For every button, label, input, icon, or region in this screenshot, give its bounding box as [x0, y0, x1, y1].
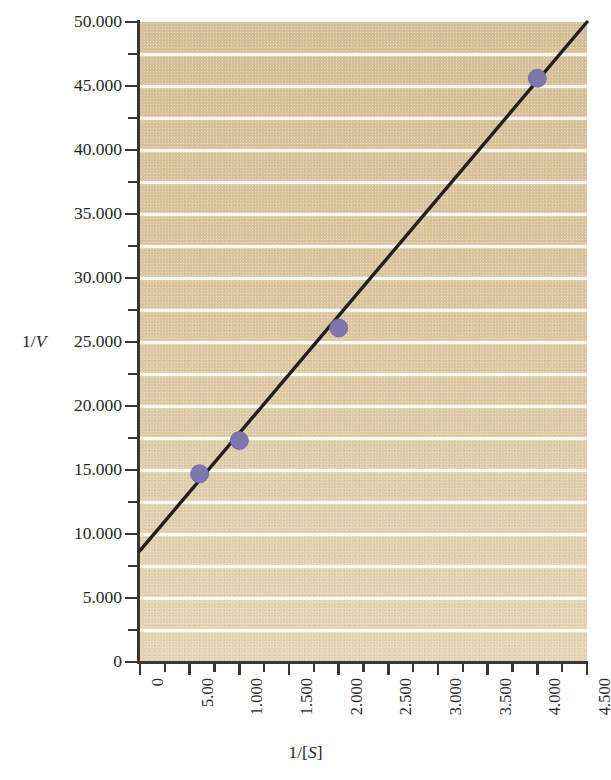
gridline	[140, 277, 587, 280]
gridline	[140, 149, 587, 152]
y-tick-major	[125, 213, 137, 216]
x-tick-minor	[213, 663, 216, 672]
x-tick-major	[139, 663, 142, 675]
x-tick-minor	[462, 663, 465, 672]
y-tick-label: 25.000	[0, 331, 122, 352]
x-tick-label: 5.00	[198, 678, 218, 707]
x-tick-label: 3.500	[496, 678, 516, 715]
x-tick-major	[486, 663, 489, 675]
x-tick-label: 4.000	[545, 678, 565, 715]
y-tick-major	[125, 149, 137, 152]
x-tick-major	[188, 663, 191, 675]
y-tick-label: 5.000	[0, 587, 122, 608]
x-tick-major	[337, 663, 340, 675]
gridline	[140, 373, 587, 376]
gridline	[140, 85, 587, 88]
y-axis-line	[137, 20, 140, 664]
x-tick-minor	[561, 663, 564, 672]
y-tick-label: 35.000	[0, 203, 122, 224]
y-tick-label: 0	[0, 651, 122, 672]
y-axis-title: 1/V	[22, 331, 46, 352]
y-tick-label: 40.000	[0, 139, 122, 160]
x-tick-major	[437, 663, 440, 675]
y-tick-major	[125, 469, 137, 472]
y-tick-major	[125, 277, 137, 280]
y-tick-minor	[128, 629, 137, 632]
y-tick-minor	[128, 501, 137, 504]
x-tick-major	[536, 663, 539, 675]
x-tick-minor	[511, 663, 514, 672]
lineweaver-burk-chart: 05.00010.00015.00020.00025.00030.00035.0…	[0, 0, 611, 780]
x-tick-label: 4.500	[595, 678, 611, 715]
x-tick-major	[586, 663, 589, 675]
y-tick-label: 45.000	[0, 75, 122, 96]
gridline	[140, 117, 587, 120]
y-tick-label: 30.000	[0, 267, 122, 288]
y-tick-major	[125, 85, 137, 88]
gridline	[140, 565, 587, 568]
x-tick-label: 0	[148, 678, 168, 686]
y-tick-label: 15.000	[0, 459, 122, 480]
x-axis-title: 1/[S]	[0, 742, 611, 763]
x-tick-major	[288, 663, 291, 675]
gridline	[140, 213, 587, 216]
gridline	[140, 341, 587, 344]
gridline	[140, 597, 587, 600]
gridline	[140, 469, 587, 472]
y-tick-label: 10.000	[0, 523, 122, 544]
y-tick-major	[125, 341, 137, 344]
gridline	[140, 181, 587, 184]
y-tick-major	[125, 597, 137, 600]
gridline	[140, 437, 587, 440]
x-tick-minor	[313, 663, 316, 672]
gridline	[140, 245, 587, 248]
y-tick-major	[125, 533, 137, 536]
y-tick-minor	[128, 437, 137, 440]
y-tick-minor	[128, 53, 137, 56]
x-tick-minor	[412, 663, 415, 672]
y-tick-minor	[128, 565, 137, 568]
y-tick-minor	[128, 309, 137, 312]
gridline	[140, 53, 587, 56]
x-tick-label: 1.000	[247, 678, 267, 715]
y-tick-major	[125, 21, 137, 24]
x-tick-label: 2.000	[347, 678, 367, 715]
x-tick-label: 1.500	[297, 678, 317, 715]
x-tick-label: 2.500	[396, 678, 416, 715]
x-tick-minor	[263, 663, 266, 672]
x-tick-minor	[362, 663, 365, 672]
y-tick-minor	[128, 373, 137, 376]
y-tick-minor	[128, 181, 137, 184]
gridline	[140, 533, 587, 536]
plot-area	[140, 22, 587, 662]
gridline	[140, 309, 587, 312]
x-tick-minor	[164, 663, 167, 672]
gridline	[140, 629, 587, 632]
gridline	[140, 405, 587, 408]
x-tick-major	[387, 663, 390, 675]
y-tick-major	[125, 405, 137, 408]
gridline	[140, 501, 587, 504]
x-tick-major	[238, 663, 241, 675]
y-tick-major	[125, 661, 137, 664]
y-tick-label: 50.000	[0, 11, 122, 32]
y-tick-minor	[128, 117, 137, 120]
x-tick-label: 3.000	[446, 678, 466, 715]
y-tick-label: 20.000	[0, 395, 122, 416]
y-tick-minor	[128, 245, 137, 248]
